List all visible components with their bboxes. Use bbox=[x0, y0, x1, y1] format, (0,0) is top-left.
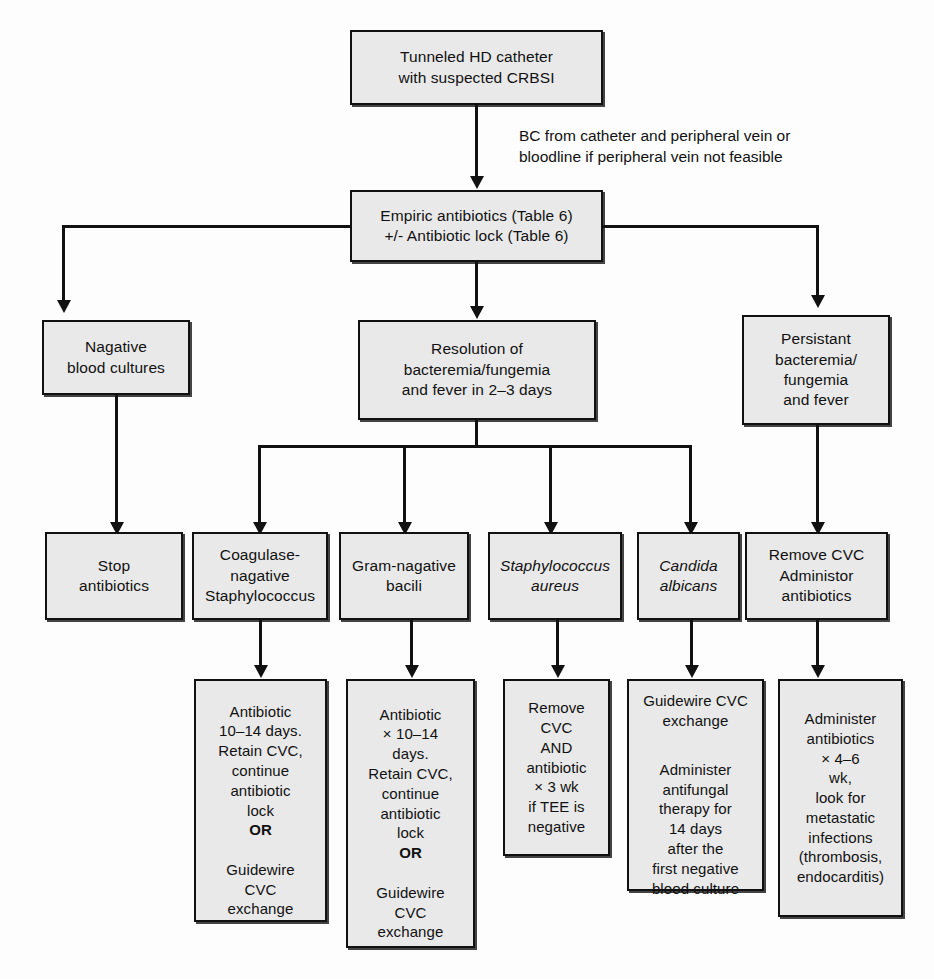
connector-gram-negative-to-treatment bbox=[410, 620, 413, 668]
node-treatment-gram-negative-part1: Antibiotic × 10–14 days. Retain CVC, con… bbox=[368, 706, 452, 842]
connector-empiric-right-horizontal bbox=[601, 225, 819, 228]
node-persistent[interactable]: Persistant bacteremia/ fungemia and feve… bbox=[742, 315, 890, 425]
connector-organism-bus bbox=[258, 445, 692, 448]
node-resolution-label: Resolution of bacteremia/fungemia and fe… bbox=[364, 339, 590, 400]
node-empiric-antibiotics-label: Empiric antibiotics (Table 6) +/- Antibi… bbox=[356, 206, 597, 247]
connector-to-cons bbox=[258, 445, 261, 525]
node-start-label: Tunneled HD catheter with suspected CRBS… bbox=[356, 47, 597, 88]
arrowhead-tx-persistent bbox=[811, 665, 825, 678]
node-treatment-persistent[interactable]: Administer antibiotics × 4–6 wk, look fo… bbox=[778, 679, 903, 917]
node-staphylococcus-aureus-label: Staphylococcus aureus bbox=[494, 556, 616, 597]
node-treatment-cons-part2: Guidewire CVC exchange bbox=[226, 861, 294, 918]
arrowhead-empiric bbox=[470, 176, 484, 189]
connector-empiric-left-horizontal bbox=[62, 225, 352, 228]
node-candida-albicans[interactable]: Candida albicans bbox=[637, 532, 740, 620]
node-negative-cultures-label: Nagative blood cultures bbox=[48, 337, 184, 378]
arrowhead-persistent bbox=[811, 295, 825, 308]
connector-negative-to-stop bbox=[115, 395, 118, 525]
node-remove-cvc-administer[interactable]: Remove CVC Administor antibiotics bbox=[745, 532, 888, 620]
node-stop-antibiotics-label: Stop antibiotics bbox=[51, 556, 177, 597]
node-treatment-candida[interactable]: Guidewire CVC exchange Administer antifu… bbox=[627, 679, 764, 891]
node-gram-negative-bacilli[interactable]: Gram-nagative bacili bbox=[339, 532, 469, 620]
node-gram-negative-bacilli-label: Gram-nagative bacili bbox=[345, 556, 463, 597]
connector-start-to-empiric bbox=[475, 105, 478, 178]
connector-remove-cvc-to-treatment bbox=[816, 620, 819, 668]
node-treatment-candida-spacer bbox=[633, 731, 758, 740]
node-remove-cvc-administer-label: Remove CVC Administor antibiotics bbox=[751, 545, 882, 606]
scan-ghost-artifact bbox=[30, 648, 180, 671]
connector-empiric-left-vertical bbox=[62, 225, 65, 302]
connector-persistent-to-remove bbox=[816, 425, 819, 525]
node-treatment-candida-part2: Administer antifungal therapy for 14 day… bbox=[652, 761, 739, 897]
node-treatment-cons-or: OR bbox=[200, 820, 321, 840]
node-stop-antibiotics[interactable]: Stop antibiotics bbox=[45, 532, 183, 620]
node-start[interactable]: Tunneled HD catheter with suspected CRBS… bbox=[350, 30, 603, 105]
node-treatment-candida-part1: Guidewire CVC exchange bbox=[643, 692, 748, 729]
connector-to-gram-negative bbox=[403, 445, 406, 525]
node-resolution[interactable]: Resolution of bacteremia/fungemia and fe… bbox=[358, 320, 596, 420]
node-empiric-antibiotics[interactable]: Empiric antibiotics (Table 6) +/- Antibi… bbox=[350, 190, 603, 262]
node-treatment-gram-negative[interactable]: Antibiotic × 10–14 days. Retain CVC, con… bbox=[346, 679, 475, 948]
node-staphylococcus-aureus[interactable]: Staphylococcus aureus bbox=[488, 532, 622, 620]
arrowhead-tx-gram-negative bbox=[405, 665, 419, 678]
node-treatment-persistent-label: Administer antibiotics × 4–6 wk, look fo… bbox=[784, 709, 897, 887]
connector-empiric-right-vertical bbox=[816, 225, 819, 297]
node-treatment-gram-negative-or: OR bbox=[352, 843, 469, 863]
connector-staph-to-treatment bbox=[556, 620, 559, 668]
arrowhead-negative-cultures bbox=[57, 300, 71, 313]
node-candida-albicans-label: Candida albicans bbox=[643, 556, 734, 597]
connector-candida-to-treatment bbox=[690, 620, 693, 668]
node-coagulase-negative-staph-label: Coagulase- nagative Staphylococcus bbox=[198, 545, 322, 606]
node-treatment-gram-negative-part2: Guidewire CVC exchange bbox=[376, 884, 444, 941]
annotation-blood-culture-note: BC from catheter and peripheral vein or … bbox=[519, 126, 919, 168]
node-treatment-staph-aureus-label: Remove CVC AND antibiotic × 3 wk if TEE … bbox=[509, 698, 604, 837]
connector-resolution-stem bbox=[475, 420, 478, 447]
node-coagulase-negative-staph[interactable]: Coagulase- nagative Staphylococcus bbox=[192, 532, 328, 620]
connector-to-staph-aureus bbox=[549, 445, 552, 525]
connector-empiric-center bbox=[475, 262, 478, 309]
connector-cons-to-treatment bbox=[259, 620, 262, 668]
node-negative-cultures[interactable]: Nagative blood cultures bbox=[42, 320, 190, 395]
node-persistent-label: Persistant bacteremia/ fungemia and feve… bbox=[748, 329, 884, 411]
node-treatment-cons-part1: Antibiotic 10–14 days. Retain CVC, conti… bbox=[218, 703, 302, 819]
flowchart-page: Tunneled HD catheter with suspected CRBS… bbox=[0, 0, 934, 979]
node-treatment-cons[interactable]: Antibiotic 10–14 days. Retain CVC, conti… bbox=[194, 679, 327, 922]
node-treatment-staph-aureus[interactable]: Remove CVC AND antibiotic × 3 wk if TEE … bbox=[503, 679, 610, 856]
arrowhead-tx-staph bbox=[551, 665, 565, 678]
arrowhead-tx-cons bbox=[254, 665, 268, 678]
connector-to-candida bbox=[689, 445, 692, 525]
arrowhead-resolution bbox=[470, 306, 484, 319]
